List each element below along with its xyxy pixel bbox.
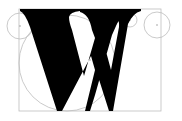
letter-construction-diagram [0,0,182,121]
center-point-marker [19,25,20,26]
letter-w-glyph [20,9,141,111]
diagram-canvas [0,0,182,121]
center-point-marker [89,59,90,60]
center-point-marker [156,24,157,25]
letter-w-shape [20,9,141,111]
